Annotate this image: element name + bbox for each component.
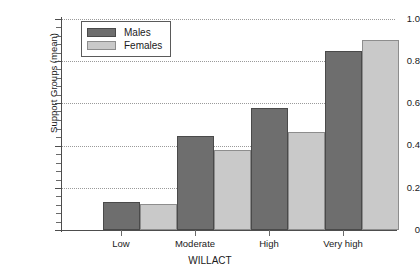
legend-item-females: Females — [87, 39, 162, 52]
x-axis-line — [61, 230, 397, 231]
legend-item-males: Males — [87, 26, 162, 39]
x-tick-high — [269, 230, 270, 236]
x-tick-moderate — [195, 230, 196, 236]
x-axis-title: WILLACT — [0, 255, 420, 266]
x-tick-very-high — [343, 230, 344, 236]
legend-label-females: Females — [124, 40, 162, 51]
bar-males-low — [103, 202, 140, 230]
x-tick-label-very-high: Very high — [303, 239, 383, 249]
bar-males-high — [251, 108, 288, 230]
gridline-1.0 — [62, 19, 395, 20]
legend-swatch-males-icon — [87, 28, 116, 37]
bar-females-low — [140, 204, 177, 230]
x-tick-low — [121, 230, 122, 236]
y-axis-title: Support Groups (mean) — [49, 23, 59, 143]
legend-label-males: Males — [124, 27, 151, 38]
bar-chart: Support Groups (mean) 1.0 0.8 0.6 0.4 0.… — [0, 0, 420, 277]
bar-females-very-high — [362, 40, 399, 230]
x-tick-label-low: Low — [81, 239, 161, 249]
bar-females-moderate — [214, 150, 251, 230]
x-tick-label-moderate: Moderate — [155, 239, 235, 249]
bar-males-very-high — [325, 51, 362, 230]
legend-swatch-females-icon — [87, 41, 116, 50]
bar-females-high — [288, 132, 325, 230]
x-tick-label-high: High — [229, 239, 309, 249]
legend: Males Females — [81, 21, 171, 57]
bar-males-moderate — [177, 136, 214, 230]
